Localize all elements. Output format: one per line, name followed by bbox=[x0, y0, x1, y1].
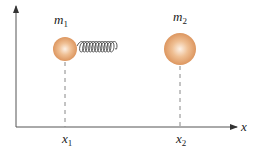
mass-2-ball bbox=[164, 33, 196, 65]
mass-1-label: m1 bbox=[54, 12, 68, 29]
spring bbox=[77, 42, 117, 53]
mass-1-ball bbox=[53, 37, 77, 61]
mass-2-label: m2 bbox=[173, 9, 187, 26]
x2-label: x2 bbox=[175, 131, 186, 148]
x-axis-label: x bbox=[240, 119, 247, 134]
x1-label: x1 bbox=[61, 131, 72, 148]
spring-mass-diagram: x m1 m2 x1 x2 bbox=[0, 0, 262, 152]
